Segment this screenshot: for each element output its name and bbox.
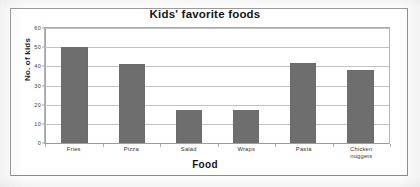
bar xyxy=(119,64,145,143)
bar-slot xyxy=(275,28,332,143)
bar-chart: Kids' favorite foods No. of kids 6050403… xyxy=(18,3,392,163)
y-axis-tick-mark xyxy=(42,28,45,29)
scanned-page: Kids' favorite foods No. of kids 6050403… xyxy=(0,0,420,187)
y-axis-tick-label: 40 xyxy=(34,63,41,69)
y-axis-tick-label: 60 xyxy=(34,25,41,31)
y-axis-tick-mark xyxy=(42,47,45,48)
bar xyxy=(347,70,373,143)
y-axis-tick-mark xyxy=(42,104,45,105)
x-axis-tick-label: Wraps xyxy=(218,146,276,160)
bar-slot xyxy=(103,28,160,143)
x-axis-tick-label: Chickennuggets xyxy=(333,146,391,160)
x-axis-tick-label: Fries xyxy=(45,146,103,160)
x-axis-tick-label: Pizza xyxy=(103,146,161,160)
bar xyxy=(290,63,316,144)
bar-slot xyxy=(160,28,217,143)
x-axis-tick-label: Salad xyxy=(160,146,218,160)
x-axis-tick-labels: FriesPizzaSaladWrapsPastaChickennuggets xyxy=(45,146,390,160)
y-axis-tick-mark xyxy=(42,85,45,86)
plot-area: 6050403020100 xyxy=(45,28,389,143)
plot-frame: 6050403020100 xyxy=(44,27,390,144)
bar xyxy=(233,110,259,143)
x-axis-title: Food xyxy=(18,159,392,170)
bar xyxy=(61,47,87,143)
y-axis-tick-mark xyxy=(42,66,45,67)
y-axis-tick-label: 10 xyxy=(34,121,41,127)
bar-slot xyxy=(332,28,389,143)
y-axis-tick-label: 20 xyxy=(34,102,41,108)
y-axis-title: No. of kids xyxy=(23,29,32,91)
y-axis-tick-label: 50 xyxy=(34,44,41,50)
x-axis-tick-label: Pasta xyxy=(275,146,333,160)
x-axis-tick-mark xyxy=(390,144,391,147)
y-axis-tick-mark xyxy=(42,123,45,124)
bar-slot xyxy=(218,28,275,143)
y-axis-tick-label: 0 xyxy=(38,140,41,146)
chart-title: Kids' favorite foods xyxy=(18,8,392,20)
bar xyxy=(176,110,202,143)
y-axis-tick-label: 30 xyxy=(34,83,41,89)
bar-slot xyxy=(46,28,103,143)
bars-group xyxy=(46,28,389,143)
